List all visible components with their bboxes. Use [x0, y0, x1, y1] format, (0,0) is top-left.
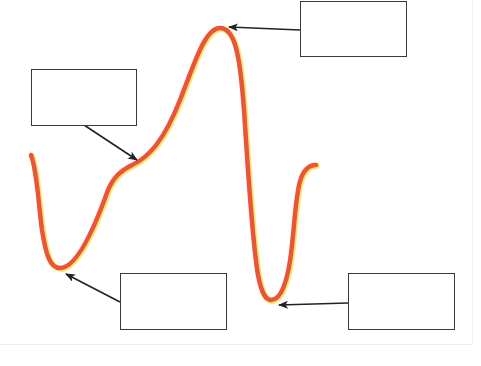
- label-box-trough-2[interactable]: [348, 273, 455, 330]
- arrow-shoulder: [84, 125, 137, 160]
- arrow-trough-1: [66, 274, 120, 302]
- arrow-peak: [229, 27, 300, 30]
- arrow-trough-2: [279, 303, 348, 305]
- label-box-peak[interactable]: [300, 1, 407, 57]
- label-box-shoulder[interactable]: [31, 69, 137, 126]
- label-box-trough-1[interactable]: [120, 273, 227, 330]
